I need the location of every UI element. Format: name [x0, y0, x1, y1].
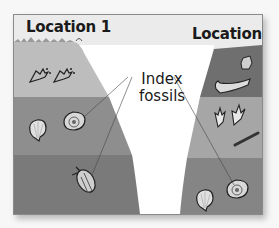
callout-line-2: fossils [132, 88, 192, 105]
index-fossils-callout: Index fossils [132, 71, 192, 105]
grass-tuft-icon [76, 39, 82, 42]
location-2-label: Location 2 [192, 25, 263, 43]
location-2-middle-layer [187, 97, 262, 158]
grass-icon [14, 37, 74, 42]
ammonite-icon [64, 112, 85, 130]
index-fossils-diagram: Location 1 Location 2 Index fossils [13, 14, 263, 215]
rock-layers-scene [14, 15, 262, 214]
location-1-bottom-layer [14, 155, 140, 214]
bone-icon [241, 56, 252, 69]
ammonite-icon [227, 180, 248, 198]
callout-line-1: Index [132, 71, 192, 88]
location-1-label: Location 1 [26, 18, 111, 36]
location-2-bottom-layer [180, 158, 262, 214]
